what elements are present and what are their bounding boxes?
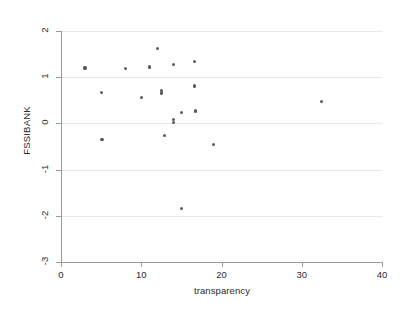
x-tick-mark xyxy=(302,262,303,267)
data-point xyxy=(180,111,183,114)
y-tick-label-text: 1 xyxy=(40,66,50,86)
gridline xyxy=(61,170,382,171)
data-point xyxy=(124,67,127,70)
data-point xyxy=(140,96,143,99)
data-point xyxy=(194,109,197,112)
data-point xyxy=(156,47,159,50)
y-axis-line xyxy=(61,31,62,263)
data-point xyxy=(180,207,183,210)
x-tick-label: 0 xyxy=(46,269,76,280)
y-tick-label-text: -2 xyxy=(40,205,50,225)
data-point xyxy=(100,138,103,141)
data-point xyxy=(160,91,163,94)
gridline xyxy=(61,123,382,124)
x-tick-label: 10 xyxy=(126,269,156,280)
x-tick-label: 40 xyxy=(367,269,397,280)
data-point xyxy=(320,100,323,103)
data-point xyxy=(193,84,196,87)
y-axis-title: FSSIBANK xyxy=(21,86,32,176)
x-tick-label: 30 xyxy=(287,269,317,280)
data-point xyxy=(163,134,166,137)
gridline xyxy=(61,77,382,78)
y-tick-label: 2 xyxy=(35,25,55,37)
y-tick-label-text: -1 xyxy=(40,159,50,179)
x-tick-label: 20 xyxy=(207,269,237,280)
x-tick-mark xyxy=(382,262,383,267)
y-tick-label-text: 0 xyxy=(40,112,50,132)
y-tick-label-text: 2 xyxy=(40,20,50,40)
gridline xyxy=(61,31,382,32)
data-point xyxy=(100,91,103,94)
y-tick-label: 0 xyxy=(35,117,55,129)
data-point xyxy=(172,63,175,66)
plot-area xyxy=(61,31,382,262)
x-tick-mark xyxy=(141,262,142,267)
y-tick-label: 1 xyxy=(35,71,55,83)
y-tick-label: -2 xyxy=(35,210,55,222)
data-point xyxy=(193,60,196,63)
y-tick-mark xyxy=(56,123,61,124)
data-point xyxy=(212,143,215,146)
y-tick-label: -3 xyxy=(35,256,55,268)
data-point xyxy=(148,65,151,68)
x-axis-title: transparency xyxy=(61,285,383,296)
y-tick-mark xyxy=(56,77,61,78)
y-tick-label: -1 xyxy=(35,164,55,176)
data-point xyxy=(172,121,175,124)
y-tick-label-text: -3 xyxy=(40,251,50,271)
x-tick-mark xyxy=(61,262,62,267)
y-tick-mark xyxy=(56,216,61,217)
scatter-plot-figure: 210-1-2-3 010203040 FSSIBANK transparenc… xyxy=(0,0,409,322)
y-tick-mark xyxy=(56,170,61,171)
x-tick-mark xyxy=(222,262,223,267)
y-tick-mark xyxy=(56,31,61,32)
data-point xyxy=(83,66,86,69)
gridline xyxy=(61,216,382,217)
